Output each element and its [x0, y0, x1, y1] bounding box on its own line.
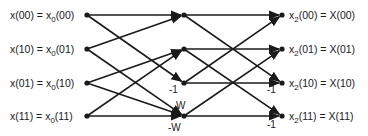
- input-labels: x(00) = x0(00) x(10) = x0(01) x(01) = x0…: [10, 9, 74, 125]
- node-col0-row2: [84, 80, 89, 85]
- node-col1-row0: [181, 12, 186, 17]
- output-label-2: x2(10) = X(10): [289, 77, 355, 92]
- weight-stage2-node2: -1: [267, 84, 276, 95]
- edge-stage2-1: [184, 15, 280, 81]
- fft-flow-graph: x(00) = x0(00) x(10) = x0(01) x(01) = x0…: [0, 0, 368, 136]
- edge-stage1-1: [87, 15, 182, 81]
- node-col0-row1: [84, 46, 89, 51]
- edge-stage2-3: [184, 49, 280, 114]
- output-labels: x2(00) = X(00) x2(01) = X(01) x2(10) = X…: [289, 9, 355, 125]
- input-label-2: x(01) = x0(10): [10, 77, 74, 92]
- weight-stage1-node3-top: W: [176, 100, 186, 111]
- weight-stage1-node2: -1: [169, 84, 178, 95]
- output-label-3: x2(11) = X(11): [289, 110, 354, 125]
- input-label-3: x(11) = x0(11): [10, 110, 73, 125]
- weights: -1 W -W -1 -1: [168, 84, 276, 133]
- edge-stage1-2: [87, 16, 181, 49]
- node-col1-row1: [181, 46, 186, 51]
- weight-stage2-node3: -1: [267, 119, 276, 130]
- edge-stage1-5: [87, 83, 181, 115]
- output-label-1: x2(01) = X(01): [289, 43, 355, 58]
- edge-stage1-4: [87, 50, 181, 83]
- node-col2-row0: [279, 12, 284, 17]
- edge-stage1-6: [87, 51, 182, 116]
- node-col1-row3: [181, 113, 186, 118]
- edge-stage2-4: [184, 17, 280, 83]
- edge-stage1-3: [87, 49, 182, 114]
- node-col0-row3: [84, 113, 89, 118]
- node-col2-row3: [279, 113, 284, 118]
- node-col1-row2: [181, 80, 186, 85]
- input-label-1: x(10) = x0(01): [10, 43, 74, 58]
- weight-stage1-node3-bottom: -W: [168, 122, 181, 133]
- node-col2-row2: [279, 80, 284, 85]
- node-col2-row1: [279, 46, 284, 51]
- output-label-0: x2(00) = X(00): [289, 9, 355, 24]
- node-col0-row0: [84, 12, 89, 17]
- input-label-0: x(00) = x0(00): [10, 9, 74, 24]
- flow-graph-svg: x(00) = x0(00) x(10) = x0(01) x(01) = x0…: [0, 0, 368, 136]
